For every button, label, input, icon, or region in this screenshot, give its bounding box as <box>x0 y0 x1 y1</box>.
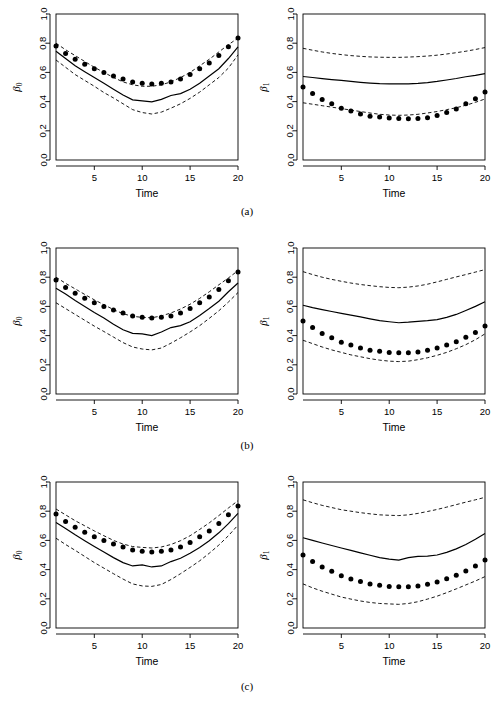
svg-text:β1: β1 <box>257 82 271 92</box>
y-tick-label: 0.6 <box>285 534 296 547</box>
y-tick-label: 0.0 <box>285 621 296 634</box>
y-tick-label: 0.4 <box>38 563 49 576</box>
data-point <box>301 85 306 90</box>
data-point <box>320 564 325 569</box>
data-point <box>63 519 68 524</box>
y-tick-label: 0.4 <box>38 329 49 342</box>
plot-frame <box>56 248 238 394</box>
y-tick-label: 0.0 <box>285 153 296 166</box>
data-point <box>140 81 145 86</box>
y-tick-label: 0.6 <box>285 66 296 79</box>
panel-c-beta0: 0.00.20.40.60.81.05101520Timeβ0 <box>0 468 247 680</box>
figure-row-a: 0.00.20.40.60.81.05101520Timeβ0 0.00.20.… <box>0 0 494 234</box>
x-tick-label: 5 <box>339 640 344 651</box>
estimate-line <box>303 302 485 323</box>
y-tick-label: 1.0 <box>285 241 296 254</box>
x-axis-title: Time <box>136 421 159 433</box>
data-point <box>301 553 306 558</box>
svg-text:β1: β1 <box>257 316 271 326</box>
data-point <box>226 512 231 517</box>
data-point <box>425 115 430 120</box>
data-point <box>63 51 68 56</box>
data-point <box>130 79 135 84</box>
data-point <box>368 581 373 586</box>
data-point <box>396 584 401 589</box>
data-point <box>168 547 173 552</box>
plot-b-beta0: 0.00.20.40.60.81.05101520Timeβ0 <box>0 234 247 446</box>
data-point <box>454 339 459 344</box>
data-point <box>396 350 401 355</box>
y-tick-label: 0.0 <box>38 153 49 166</box>
panel-a-beta1: 0.00.20.40.60.81.05101520Timeβ1 <box>247 0 494 212</box>
data-point <box>149 550 154 555</box>
y-tick-label: 0.8 <box>285 271 296 284</box>
x-tick-label: 5 <box>92 172 97 183</box>
confidence-band-line <box>303 99 485 115</box>
data-point <box>188 540 193 545</box>
data-point <box>473 563 478 568</box>
x-axis-title: Time <box>136 187 159 199</box>
y-tick-label: 0.6 <box>38 66 49 79</box>
y-tick-label: 0.8 <box>285 505 296 518</box>
data-point <box>207 294 212 299</box>
panel-b-beta0: 0.00.20.40.60.81.05101520Timeβ0 <box>0 234 247 446</box>
y-tick-label: 1.0 <box>285 475 296 488</box>
data-point <box>387 350 392 355</box>
figure-container: 0.00.20.40.60.81.05101520Timeβ0 0.00.20.… <box>0 0 494 702</box>
x-tick-label: 5 <box>339 406 344 417</box>
x-tick-label: 5 <box>339 172 344 183</box>
data-point <box>216 287 221 292</box>
y-tick-label: 0.0 <box>38 387 49 400</box>
x-tick-label: 10 <box>137 640 148 651</box>
plot-a-beta0: 0.00.20.40.60.81.05101520Timeβ0 <box>0 0 247 212</box>
data-point <box>207 528 212 533</box>
plot-frame <box>56 14 238 160</box>
data-point <box>216 521 221 526</box>
data-point <box>483 90 488 95</box>
y-tick-label: 0.2 <box>285 124 296 137</box>
data-point <box>473 96 478 101</box>
x-axis-title: Time <box>383 421 406 433</box>
confidence-band-line <box>56 293 238 350</box>
data-point <box>425 348 430 353</box>
data-point <box>358 579 363 584</box>
data-point <box>130 547 135 552</box>
data-point <box>415 583 420 588</box>
y-axis-title-beta0: β0 <box>10 316 24 326</box>
data-point <box>387 115 392 120</box>
estimate-line <box>56 47 238 102</box>
panel-b-beta1: 0.00.20.40.60.81.05101520Timeβ1 <box>247 234 494 446</box>
data-point <box>358 346 363 351</box>
data-point <box>368 114 373 119</box>
data-point <box>329 569 334 574</box>
x-tick-label: 20 <box>233 640 244 651</box>
confidence-band-line <box>303 270 485 288</box>
x-tick-label: 15 <box>185 406 196 417</box>
data-point <box>197 534 202 539</box>
data-point <box>82 530 87 535</box>
data-point <box>216 53 221 58</box>
data-point <box>444 343 449 348</box>
data-point <box>483 324 488 329</box>
data-point <box>310 325 315 330</box>
data-point <box>483 558 488 563</box>
data-point <box>368 348 373 353</box>
data-point <box>387 584 392 589</box>
data-point <box>454 573 459 578</box>
data-point <box>377 114 382 119</box>
y-tick-label: 0.6 <box>38 300 49 313</box>
y-tick-label: 0.0 <box>285 387 296 400</box>
figure-row-b: 0.00.20.40.60.81.05101520Timeβ0 0.00.20.… <box>0 234 494 468</box>
data-point <box>435 346 440 351</box>
data-point <box>473 330 478 335</box>
data-point <box>415 349 420 354</box>
data-point <box>63 285 68 290</box>
confidence-band-line <box>56 271 238 318</box>
data-point <box>339 340 344 345</box>
data-point <box>101 538 106 543</box>
x-tick-label: 15 <box>185 640 196 651</box>
y-axis-title-beta1: β1 <box>257 82 271 92</box>
plot-c-beta1: 0.00.20.40.60.81.05101520Timeβ1 <box>247 468 494 680</box>
x-tick-label: 15 <box>432 640 443 651</box>
y-tick-label: 1.0 <box>38 7 49 20</box>
